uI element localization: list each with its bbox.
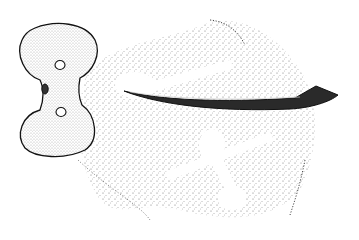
ground-stipple (78, 20, 315, 220)
artifact-illustration (0, 0, 359, 240)
illustration-svg (0, 0, 359, 240)
